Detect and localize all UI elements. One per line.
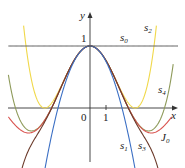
y-tick-label: 1 bbox=[81, 32, 87, 44]
bessel-partial-sums-diagram: y x 0 1 1 s0 s2 s4 J0 s1 s3 bbox=[0, 0, 185, 168]
x-axis-label: x bbox=[170, 109, 176, 121]
x-tick-label: 1 bbox=[103, 111, 109, 123]
y-axis-label: y bbox=[79, 9, 85, 21]
label-s3: s3 bbox=[138, 139, 146, 153]
label-J0: J0 bbox=[161, 131, 170, 145]
origin-label: 0 bbox=[81, 111, 87, 123]
label-s4: s4 bbox=[158, 83, 166, 97]
diagram-canvas: y x 0 1 1 s0 s2 s4 J0 s1 s3 bbox=[0, 0, 185, 168]
curves-group bbox=[8, 26, 178, 168]
label-s2: s2 bbox=[144, 21, 152, 35]
label-s0: s0 bbox=[120, 31, 128, 45]
y-axis-arrow-icon bbox=[88, 12, 93, 18]
label-s1: s1 bbox=[120, 139, 128, 153]
